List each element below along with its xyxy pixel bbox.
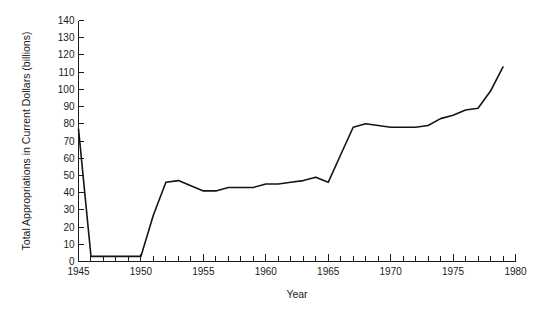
y-tick-label: 90 [63,101,75,112]
y-tick-label: 80 [63,118,75,129]
y-tick-label: 10 [63,239,75,250]
y-tick-label: 70 [63,136,75,147]
x-tick-label: 1980 [504,266,527,277]
y-tick-label: 100 [58,84,75,95]
y-tick-label: 50 [63,170,75,181]
x-tick-label: 1965 [317,266,340,277]
y-axis-title: Total Appropriations in Current Dollars … [20,32,32,251]
y-tick-label: 20 [63,222,75,233]
x-tick-label: 1955 [192,266,215,277]
y-tick-label: 40 [63,187,75,198]
y-tick-label: 30 [63,204,75,215]
y-tick-label: 140 [58,15,75,26]
y-tick-label: 60 [63,153,75,164]
x-tick-label: 1960 [255,266,278,277]
x-tick-label: 1950 [130,266,153,277]
x-axis-title: Year [286,288,308,300]
x-tick-label: 1975 [442,266,465,277]
x-tick-label: 1945 [67,266,90,277]
y-tick-label: 130 [58,32,75,43]
chart-container: 0102030405060708090100110120130140 19451… [0,0,549,314]
y-tick-label: 120 [58,49,75,60]
data-series-line [79,67,504,256]
line-chart: 0102030405060708090100110120130140 19451… [0,0,549,314]
y-tick-label: 110 [59,67,75,78]
x-tick-label: 1970 [380,266,403,277]
